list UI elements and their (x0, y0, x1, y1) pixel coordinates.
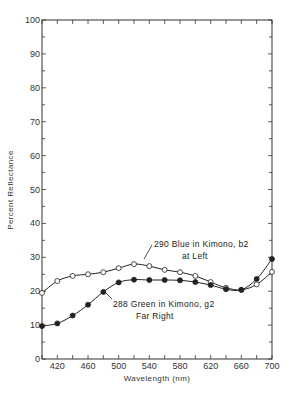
y-axis-title: Percent Reflectance (6, 150, 15, 230)
x-tick-label: 580 (172, 361, 187, 371)
filled-circle-marker (40, 324, 45, 329)
open-circle-marker (162, 267, 167, 272)
y-tick-label: 90 (30, 49, 40, 59)
open-circle-marker (70, 273, 75, 278)
x-tick-label: 540 (142, 361, 157, 371)
annotation-blue-line1: 290 Blue in Kimono, b2 (154, 239, 249, 249)
filled-circle-marker (270, 256, 275, 261)
x-axis-title: Wavelength (nm) (124, 374, 191, 383)
annotation-blue: 290 Blue in Kimono, b2 at Left (144, 239, 249, 261)
open-circle-marker (254, 282, 259, 287)
filled-circle-marker (162, 278, 167, 283)
filled-circle-marker (132, 277, 137, 282)
annotation-green-line1: 288 Green in Kimono, g2 (113, 299, 214, 309)
filled-circle-marker (224, 287, 229, 292)
annotation-green-line2: Far Right (136, 311, 174, 321)
annotation-blue-pointer (144, 245, 152, 259)
y-tick-label: 50 (30, 185, 40, 195)
x-tick-label: 460 (80, 361, 95, 371)
y-tick-label: 10 (30, 320, 40, 330)
filled-circle-marker (70, 313, 75, 318)
x-tick-label: 700 (264, 361, 279, 371)
annotation-green: 288 Green in Kimono, g2 Far Right (105, 292, 214, 321)
reflectance-chart: 0102030405060708090100 42046050054058062… (0, 0, 293, 394)
series-line (42, 264, 272, 293)
filled-circle-marker (116, 280, 121, 285)
filled-circle-marker (86, 302, 91, 307)
open-circle-marker (132, 262, 137, 267)
y-tick-label: 70 (30, 117, 40, 127)
annotation-blue-line2: at Left (182, 251, 208, 261)
x-tick-label: 500 (111, 361, 126, 371)
y-tick-label: 0 (35, 354, 40, 364)
open-circle-marker (116, 266, 121, 271)
open-circle-marker (40, 290, 45, 295)
filled-circle-marker (239, 287, 244, 292)
open-circle-marker (101, 270, 106, 275)
x-tick-label: 620 (203, 361, 218, 371)
filled-circle-marker (101, 289, 106, 294)
y-tick-label: 100 (25, 15, 40, 25)
x-tick-label: 420 (50, 361, 65, 371)
open-circle-marker (147, 264, 152, 269)
filled-circle-marker (193, 280, 198, 285)
y-tick-label: 30 (30, 252, 40, 262)
open-circle-marker (193, 273, 198, 278)
open-circle-marker (178, 270, 183, 275)
open-circle-marker (86, 272, 91, 277)
filled-circle-marker (55, 321, 60, 326)
y-tick-label: 80 (30, 83, 40, 93)
filled-circle-marker (254, 276, 259, 281)
open-circle-marker (270, 269, 275, 274)
filled-circle-marker (147, 278, 152, 283)
annotation-green-pointer (105, 292, 112, 299)
filled-circle-marker (178, 278, 183, 283)
y-tick-label: 40 (30, 218, 40, 228)
x-tick-label: 660 (234, 361, 249, 371)
filled-circle-marker (208, 283, 213, 288)
y-tick-label: 60 (30, 151, 40, 161)
y-tick-label: 20 (30, 286, 40, 296)
open-circle-marker (55, 279, 60, 284)
